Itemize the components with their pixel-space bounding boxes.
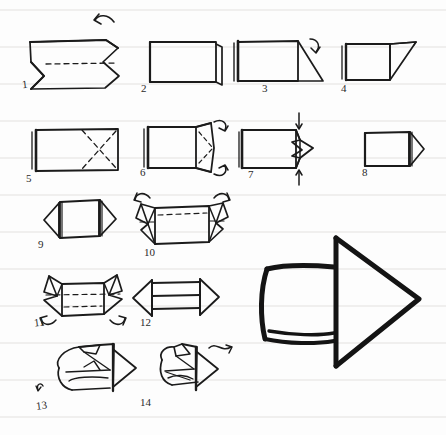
step-number-4: 4 — [341, 82, 347, 94]
step-number-12: 12 — [140, 316, 151, 328]
step-10-figure — [134, 193, 230, 244]
final-3d-arrow-figure — [261, 238, 419, 366]
step-number-11: 11 — [33, 315, 45, 328]
step-number-8: 8 — [362, 166, 368, 178]
step-13-figure — [36, 344, 136, 391]
step-10-arrow-icons — [134, 193, 230, 202]
step-2-figure — [150, 42, 222, 85]
step-3-arrow-icon — [310, 39, 320, 53]
step-6-dashed-folds — [199, 132, 212, 163]
step-number-13: 13 — [35, 398, 47, 411]
notebook-page: 1 2 3 4 5 6 7 8 9 10 11 12 13 14 — [0, 0, 446, 435]
step-number-14: 14 — [140, 396, 151, 408]
step-6-arrow-icons — [214, 121, 228, 176]
step-13-arrow-icon — [36, 384, 43, 391]
step-number-3: 3 — [262, 82, 268, 94]
step-1-figure — [30, 14, 119, 89]
step-8-figure — [365, 132, 424, 166]
step-number-5: 5 — [26, 172, 32, 184]
step-1-arrow-icon — [94, 14, 114, 24]
step-number-9: 9 — [38, 238, 44, 250]
step-14-arrow-icon — [209, 345, 232, 353]
origami-diagram-artwork — [0, 0, 446, 435]
step-3-figure — [234, 39, 323, 81]
step-6-figure — [144, 121, 228, 176]
step-4-figure — [342, 42, 416, 80]
step-12-figure — [133, 279, 219, 316]
step-11-arrow-icons — [40, 316, 126, 325]
step-5-dashed-cross — [82, 130, 116, 169]
step-number-2: 2 — [141, 82, 147, 94]
step-number-7: 7 — [248, 168, 254, 180]
step-5-figure — [32, 129, 118, 171]
step-14-figure — [160, 344, 232, 390]
step-9-figure — [44, 200, 116, 238]
step-11-figure — [40, 275, 126, 325]
step-number-6: 6 — [140, 166, 146, 178]
step-number-10: 10 — [144, 246, 155, 258]
